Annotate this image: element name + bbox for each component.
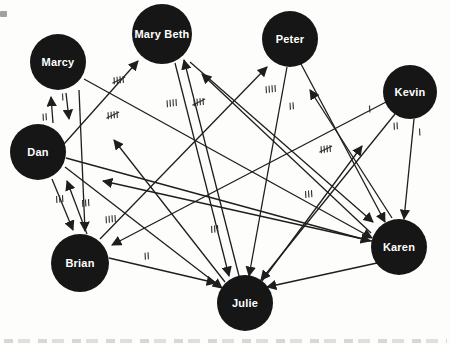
tally-stroke — [144, 253, 146, 260]
tally-label-2-17 — [144, 252, 149, 259]
tally-stroke — [308, 191, 310, 198]
sociogram-canvas: MarcyMary BethPeterKevinDanBrianKarenJul… — [0, 0, 451, 345]
tally-label-2-1 — [42, 113, 47, 120]
edge-peter-julie — [249, 67, 287, 276]
tally-label-2-7 — [289, 102, 294, 109]
tally-stroke — [292, 102, 294, 109]
tally-stroke — [42, 114, 44, 121]
node-label-karen: Karen — [383, 241, 415, 253]
node-label-peter: Peter — [276, 33, 305, 45]
tally-stroke — [393, 123, 395, 130]
tally-stroke — [320, 146, 322, 153]
sociogram-figure-page: MarcyMary BethPeterKevinDanBrianKarenJul… — [0, 0, 451, 345]
edge-marybeth-julie — [175, 63, 229, 276]
tally-stroke — [271, 85, 273, 92]
tally-stroke — [211, 226, 213, 233]
node-label-brian: Brian — [65, 257, 94, 269]
tally-label-3-14 — [82, 199, 90, 207]
tally-stroke — [289, 103, 291, 110]
edge-karen-julie — [267, 263, 377, 287]
tally-stroke — [62, 195, 64, 202]
cropped-caption-remnant — [4, 339, 447, 343]
tally-stroke — [305, 191, 307, 198]
tally-stroke — [56, 196, 58, 203]
tally-stroke — [116, 111, 118, 118]
tally-stroke — [111, 215, 113, 222]
edge-marybeth-karen — [190, 62, 373, 222]
edge-julie-marybeth — [184, 60, 239, 276]
tally-label-3-16 — [211, 225, 219, 233]
tally-stroke — [62, 94, 64, 101]
tally-stroke — [59, 196, 61, 203]
tally-stroke — [419, 129, 421, 136]
node-label-kevin: Kevin — [395, 86, 426, 98]
tally-stroke — [274, 85, 276, 92]
tally-stroke — [105, 216, 107, 223]
edge-brian-peter — [100, 67, 267, 239]
tally-stroke — [147, 252, 149, 259]
tally-label-2-9 — [393, 122, 398, 129]
tally-stroke — [396, 122, 398, 129]
tally-label-3-13 — [56, 195, 64, 203]
node-label-julie: Julie — [232, 297, 258, 309]
tally-stroke — [166, 100, 168, 107]
tally-label-5-3 — [106, 111, 120, 120]
edge-dan-brian — [52, 179, 73, 230]
edge-marcy-brian — [79, 90, 85, 231]
edge-marcy-dan — [66, 93, 69, 119]
edge-kevin-karen — [404, 119, 414, 219]
tally-stroke — [265, 86, 267, 93]
tally-label-4-4 — [166, 99, 176, 107]
tally-stroke — [88, 199, 90, 206]
edge-julie-marcy — [114, 140, 225, 282]
node-label-marcy: Marcy — [42, 56, 75, 68]
edge-karen-dan — [103, 181, 372, 241]
tally-label-4-6 — [265, 85, 275, 93]
tally-stroke — [329, 145, 331, 152]
edge-julie-kevin — [262, 146, 362, 281]
tally-stroke — [202, 98, 204, 105]
tally-stroke — [169, 100, 171, 107]
tally-label-5-11 — [319, 145, 333, 154]
tally-stroke — [214, 226, 216, 233]
tally-stroke — [172, 99, 174, 106]
tally-stroke — [311, 190, 313, 197]
node-label-dan: Dan — [27, 146, 48, 158]
tally-stroke — [107, 112, 109, 119]
tally-label-1-10 — [419, 129, 421, 136]
tally-label-4-15 — [105, 215, 115, 223]
tally-stroke — [45, 113, 47, 120]
tally-stroke — [175, 99, 177, 106]
edge-dan-marcy — [51, 97, 53, 123]
tally-stroke — [268, 86, 270, 93]
tally-stroke — [113, 77, 115, 84]
tally-label-3-12 — [305, 190, 313, 198]
node-label-marybeth: Mary Beth — [135, 28, 190, 40]
scan-artifact — [0, 11, 7, 17]
tally-stroke — [108, 216, 110, 223]
tally-stroke — [85, 200, 87, 207]
tally-label-1-0 — [62, 94, 64, 101]
tally-stroke — [114, 215, 116, 222]
